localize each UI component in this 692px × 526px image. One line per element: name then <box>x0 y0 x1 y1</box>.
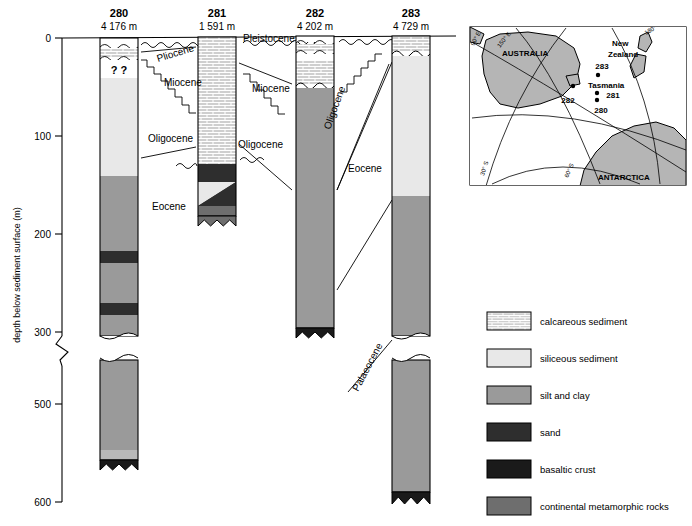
site-water-depth-280: 4 176 m <box>101 21 137 32</box>
column-site-282 <box>296 36 334 338</box>
map-marker-280 <box>595 98 599 102</box>
epoch-label-eocene-280: Eocene <box>152 201 186 212</box>
epoch-labels: Pleistocene Pliocene Miocene Miocene Oli… <box>148 33 385 393</box>
axis-tick-0: 0 <box>45 33 51 44</box>
axis-tick-200: 200 <box>34 229 51 240</box>
site-280-question-marks: ? ? <box>111 64 128 76</box>
site-281-basement <box>198 216 236 226</box>
column-site-283 <box>392 36 430 504</box>
legend-swatch-basaltic-crust <box>487 460 531 478</box>
legend-label-sand: sand <box>540 427 561 438</box>
map-label-newzealand-1: New <box>612 39 629 48</box>
epoch-label-pleistocene: Pleistocene <box>243 33 295 44</box>
axis-title: depth below sediment surface (m) <box>12 207 22 343</box>
epoch-label-palaeocene: Palaeocene <box>350 341 385 393</box>
legend-label-calcareous-sediment: calcareous sediment <box>540 316 627 327</box>
legend: calcareous sediment siliceous sediment s… <box>487 312 669 515</box>
figure-svg: 0 100 200 300 500 600 depth below sedime… <box>0 0 692 526</box>
legend-label-basaltic-crust: basaltic crust <box>540 464 596 475</box>
axis-tick-500: 500 <box>34 399 51 410</box>
site-282-basalt <box>296 328 334 338</box>
map-site-label-283: 283 <box>595 62 609 71</box>
legend-swatch-siliceous-sediment <box>487 349 531 367</box>
map-label-antarctica: ANTARCTICA <box>598 173 650 182</box>
site-headers: 280 4 176 m 281 1 591 m 282 4 202 m 283 … <box>101 7 429 32</box>
site-label-281: 281 <box>208 7 226 19</box>
column-site-281 <box>198 37 236 226</box>
axis-tick-600: 600 <box>34 497 51 508</box>
site-water-depth-282: 4 202 m <box>297 21 333 32</box>
site-label-280: 280 <box>110 7 128 19</box>
map-site-label-281: 281 <box>606 91 620 100</box>
site-label-282: 282 <box>306 7 324 19</box>
legend-swatch-calcareous-sediment <box>487 312 531 330</box>
epoch-label-pliocene: Pliocene <box>155 42 195 64</box>
epoch-label-eocene-283: Eocene <box>348 163 382 174</box>
site-283-basalt <box>392 492 430 504</box>
site-water-depth-281: 1 591 m <box>199 21 235 32</box>
legend-swatch-sand <box>487 423 531 441</box>
map-site-label-282: 282 <box>561 96 575 105</box>
map-marker-281 <box>595 91 599 95</box>
legend-label-silt-and-clay: silt and clay <box>540 390 590 401</box>
legend-swatch-continental-metamorphic-rocks <box>487 497 531 515</box>
column-site-280: ? ? <box>100 38 138 470</box>
map-marker-282 <box>571 84 575 88</box>
epoch-label-oligocene-280: Oligocene <box>148 133 193 144</box>
map-label-australia: AUSTRALIA <box>502 49 548 58</box>
map-site-label-280: 280 <box>594 106 608 115</box>
axis-tick-300: 300 <box>34 327 51 338</box>
axis-break-symbol <box>56 336 68 366</box>
legend-label-siliceous-sediment: siliceous sediment <box>540 353 618 364</box>
epoch-label-miocene-282: Miocene <box>252 83 290 94</box>
site-water-depth-283: 4 729 m <box>393 21 429 32</box>
map-label-newzealand-2: Zealand <box>608 50 638 59</box>
legend-swatch-silt-and-clay <box>487 386 531 404</box>
stratigraphic-figure: 0 100 200 300 500 600 depth below sedime… <box>0 0 692 526</box>
epoch-label-oligocene-282: Oligocene <box>238 139 283 150</box>
depth-axis: 0 100 200 300 500 600 depth below sedime… <box>12 33 68 508</box>
site-label-283: 283 <box>402 7 420 19</box>
legend-label-continental-metamorphic-rocks: continental metamorphic rocks <box>540 501 669 512</box>
map-label-tasmania: Tasmania <box>588 81 625 90</box>
map-marker-283 <box>596 73 600 77</box>
site-280-basalt <box>100 460 138 470</box>
inset-map: 150° E 180° 90° E 30° S 60° S AUSTRALIA … <box>470 24 686 186</box>
epoch-label-miocene-280: Miocene <box>164 77 202 88</box>
axis-tick-100: 100 <box>34 131 51 142</box>
